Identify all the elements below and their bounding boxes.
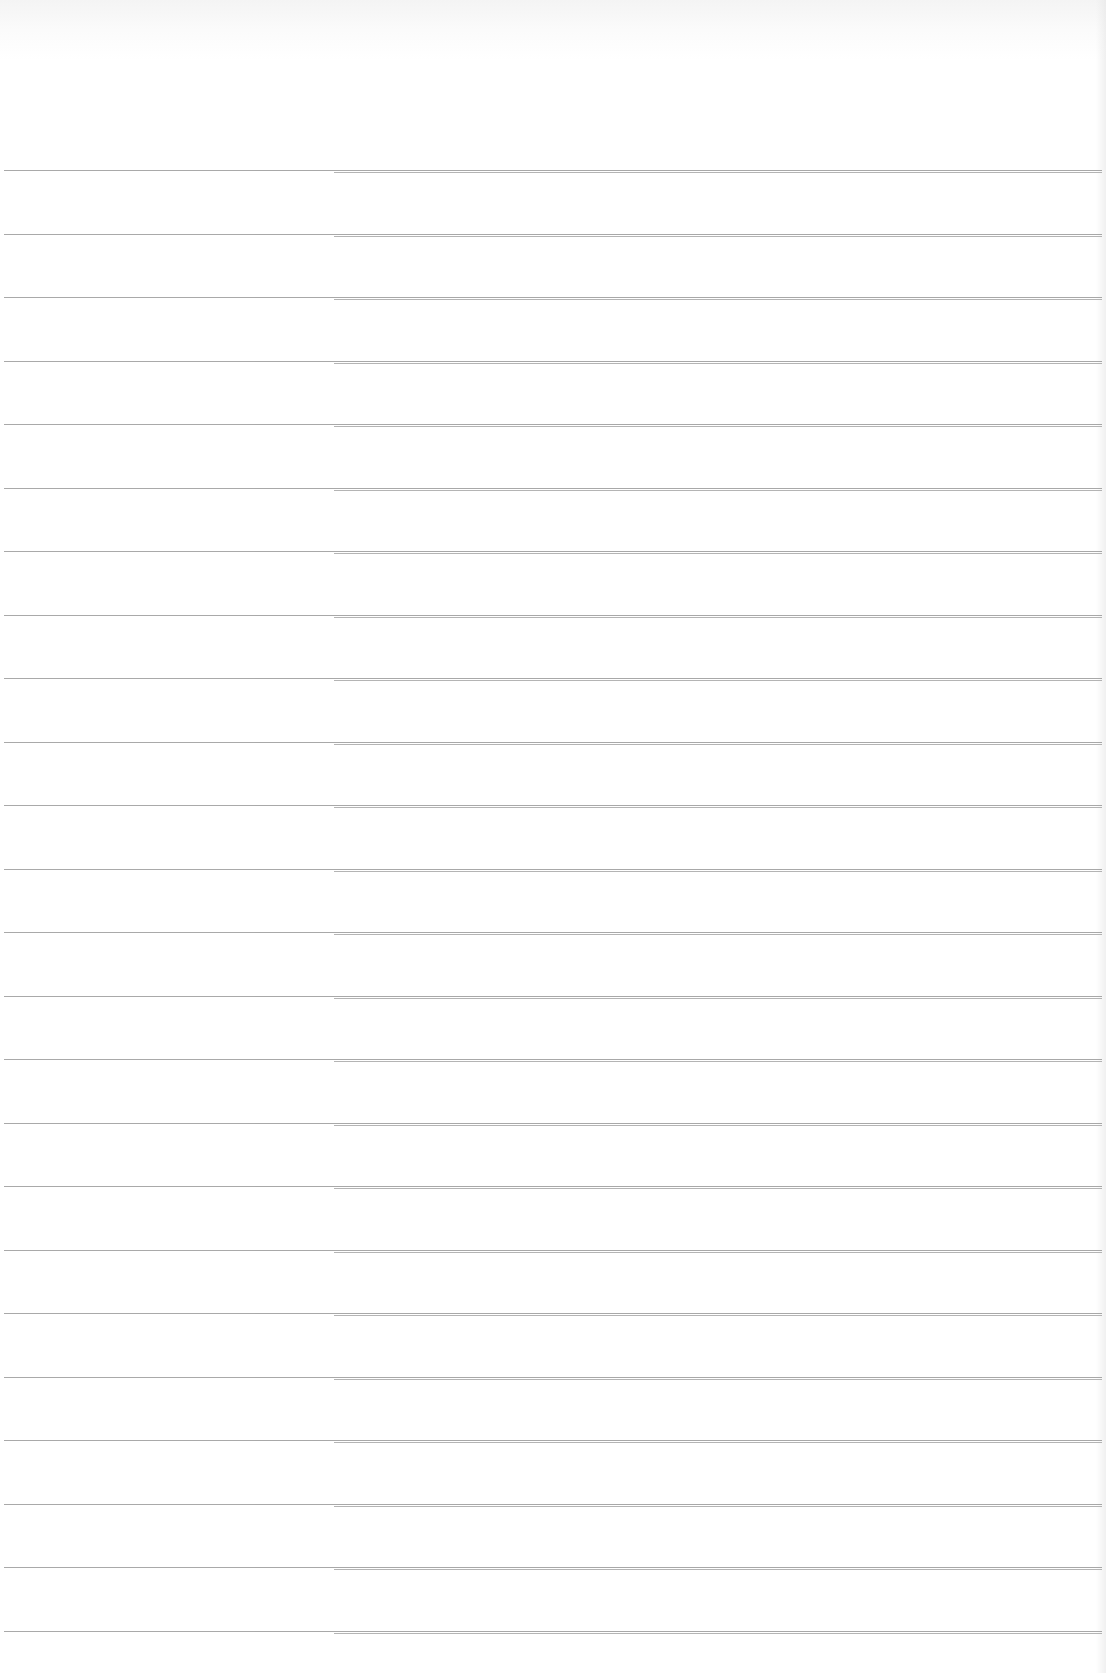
ruled-line <box>4 297 1102 298</box>
ruled-line <box>4 742 1102 743</box>
ruled-line <box>4 1567 1102 1568</box>
ruled-line <box>4 1377 1102 1378</box>
ruled-line <box>4 1313 1102 1314</box>
ruled-line <box>4 488 1102 489</box>
paper-edge-shadow <box>1096 0 1106 1673</box>
ruled-line <box>4 1059 1102 1060</box>
ruled-line <box>4 869 1102 870</box>
ruled-line <box>4 805 1102 806</box>
ruled-line <box>4 1440 1102 1441</box>
ruled-line <box>4 1631 1102 1632</box>
ruled-line <box>4 361 1102 362</box>
ruled-line <box>4 932 1102 933</box>
ruled-line <box>4 678 1102 679</box>
ruled-line <box>4 615 1102 616</box>
ruled-line <box>4 996 1102 997</box>
ruled-line <box>4 1123 1102 1124</box>
ruled-line <box>4 1250 1102 1251</box>
ruled-line <box>4 1504 1102 1505</box>
ruled-line <box>4 551 1102 552</box>
ruled-line <box>4 424 1102 425</box>
lined-paper-sheet <box>0 0 1106 1673</box>
ruled-line <box>4 170 1102 171</box>
ruled-line <box>4 1186 1102 1187</box>
ruled-line <box>4 234 1102 235</box>
